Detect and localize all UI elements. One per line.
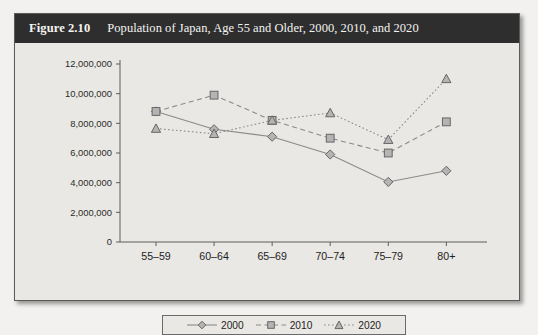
line-chart: 02,000,0004,000,0006,000,0008,000,00010,…	[15, 43, 521, 301]
x-axis-labels: 55–5960–6465–6970–7475–7980+	[141, 250, 455, 262]
y-tick-label: 12,000,000	[65, 58, 112, 69]
x-tick-label: 75–79	[374, 250, 404, 262]
marker-layer	[151, 74, 451, 186]
y-tick-label: 10,000,000	[65, 88, 112, 99]
y-tick-label: 8,000,000	[70, 118, 112, 129]
figure-title-bar: Figure 2.10 Population of Japan, Age 55 …	[15, 14, 519, 43]
y-tick-label: 0	[107, 236, 112, 247]
x-tick-label: 70–74	[315, 250, 345, 262]
square-marker	[210, 91, 218, 99]
y-axis-ticks	[116, 64, 120, 242]
legend-item-2010[interactable]: 2010	[256, 319, 313, 331]
chart-legend: 2000 2010 2020	[162, 315, 406, 335]
x-tick-label: 65–69	[257, 250, 287, 262]
figure-card: Figure 2.10 Population of Japan, Age 55 …	[14, 13, 520, 301]
series-line-2010	[156, 95, 446, 153]
x-axis-ticks	[156, 242, 446, 246]
legend-item-2000[interactable]: 2000	[187, 319, 244, 331]
series-line-2020	[156, 79, 446, 140]
square-marker	[326, 134, 334, 142]
diamond-marker	[268, 132, 277, 141]
diamond-marker	[384, 177, 393, 186]
square-marker	[152, 108, 160, 116]
triangle-marker	[151, 124, 160, 132]
figure-title: Population of Japan, Age 55 and Older, 2…	[107, 21, 418, 36]
legend-label-2000: 2000	[221, 320, 244, 331]
legend-item-2020[interactable]: 2020	[324, 319, 381, 331]
diamond-marker	[442, 166, 451, 175]
x-tick-label: 60–64	[199, 250, 229, 262]
legend-diamond-icon	[187, 319, 217, 331]
triangle-marker	[326, 108, 335, 116]
legend-label-2020: 2020	[358, 320, 381, 331]
legend-label-2010: 2010	[290, 320, 313, 331]
square-marker	[384, 149, 392, 157]
y-tick-label: 2,000,000	[70, 207, 112, 218]
triangle-marker	[442, 74, 451, 82]
chart-plot-area: 02,000,0004,000,0006,000,0008,000,00010,…	[15, 43, 521, 301]
y-tick-label: 6,000,000	[70, 147, 112, 158]
square-marker	[442, 118, 450, 126]
diamond-marker	[326, 150, 335, 159]
series-layer	[156, 79, 446, 182]
legend-square-icon	[256, 319, 286, 331]
x-tick-label: 80+	[437, 250, 455, 262]
figure-number: Figure 2.10	[29, 21, 90, 36]
y-tick-label: 4,000,000	[70, 177, 112, 188]
y-axis-labels: 02,000,0004,000,0006,000,0008,000,00010,…	[65, 58, 112, 247]
x-tick-label: 55–59	[141, 250, 171, 262]
legend-triangle-icon	[324, 319, 354, 331]
series-line-2000	[156, 111, 446, 181]
